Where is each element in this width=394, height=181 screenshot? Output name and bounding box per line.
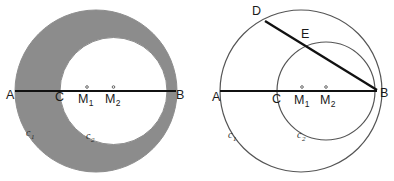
- point-label-E: E: [301, 27, 309, 41]
- point-label-D: D: [252, 4, 261, 18]
- point-label-C: C: [55, 90, 64, 104]
- figure-canvas: ACM1M2B c1c2 ACM1M2BDE c1c2: [0, 0, 394, 181]
- point-label-A: A: [212, 90, 221, 104]
- point-label-C: C: [272, 92, 281, 106]
- point-label-B: B: [176, 88, 184, 102]
- point-label-A: A: [6, 88, 15, 102]
- point-label-B: B: [380, 86, 388, 100]
- geometry-figure: ACM1M2B c1c2 ACM1M2BDE c1c2: [0, 0, 394, 181]
